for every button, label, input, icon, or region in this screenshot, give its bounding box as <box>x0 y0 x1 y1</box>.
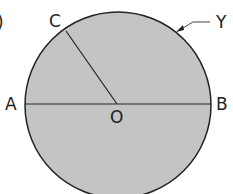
arrowhead-icon <box>176 25 184 32</box>
circle-diagram: ) C Y A B O <box>0 0 233 194</box>
circle <box>25 12 211 194</box>
label-o: O <box>110 107 123 127</box>
label-c: C <box>49 11 61 31</box>
label-a: A <box>5 94 17 114</box>
label-y: Y <box>215 12 227 32</box>
label-b: B <box>216 94 228 114</box>
part-marker: ) <box>0 12 4 32</box>
